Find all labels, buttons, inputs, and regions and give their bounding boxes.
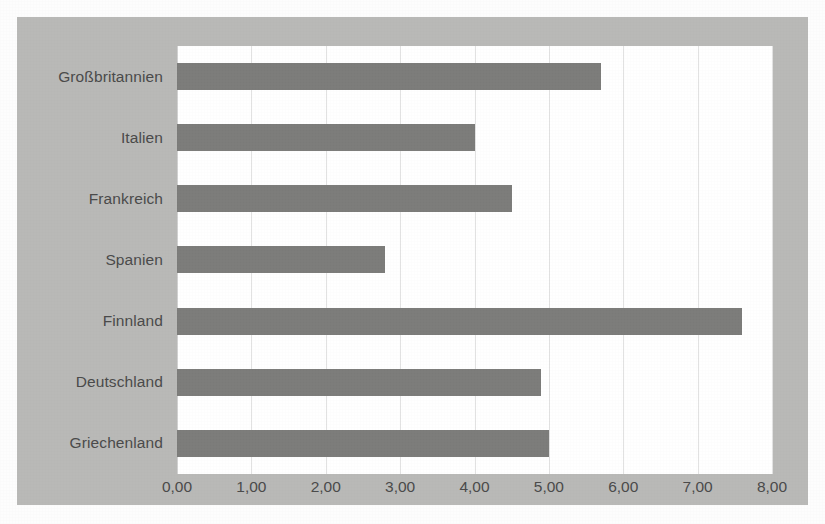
bar-row (177, 291, 772, 352)
bar-row (177, 46, 772, 107)
category-label: Frankreich (17, 168, 172, 229)
category-label: Italien (17, 107, 172, 168)
bar-row (177, 168, 772, 229)
category-label: Deutschland (17, 352, 172, 413)
plot-area (177, 46, 772, 474)
value-tick-label: 6,00 (608, 478, 638, 496)
bar (177, 246, 385, 273)
bar (177, 308, 742, 335)
bar-row (177, 352, 772, 413)
bar (177, 369, 541, 396)
bar-row (177, 229, 772, 290)
gridline (772, 46, 773, 474)
category-label: Griechenland (17, 413, 172, 474)
bar (177, 124, 475, 151)
value-tick-label: 8,00 (757, 478, 787, 496)
value-tick-label: 0,00 (162, 478, 192, 496)
bar (177, 63, 601, 90)
category-axis: GroßbritannienItalienFrankreichSpanienFi… (17, 46, 172, 474)
value-tick-label: 7,00 (683, 478, 713, 496)
value-tick-label: 4,00 (459, 478, 489, 496)
bar (177, 185, 512, 212)
value-tick-label: 3,00 (385, 478, 415, 496)
value-axis: 0,001,002,003,004,005,006,007,008,00 (177, 478, 772, 504)
bar-chart-figure: GroßbritannienItalienFrankreichSpanienFi… (0, 0, 825, 524)
category-label: Großbritannien (17, 46, 172, 107)
bar-row (177, 107, 772, 168)
bar-row (177, 413, 772, 474)
value-tick-label: 1,00 (236, 478, 266, 496)
category-label: Spanien (17, 229, 172, 290)
bar (177, 430, 549, 457)
value-tick-label: 2,00 (311, 478, 341, 496)
category-label: Finnland (17, 291, 172, 352)
value-tick-label: 5,00 (534, 478, 564, 496)
bar-series (177, 46, 772, 474)
